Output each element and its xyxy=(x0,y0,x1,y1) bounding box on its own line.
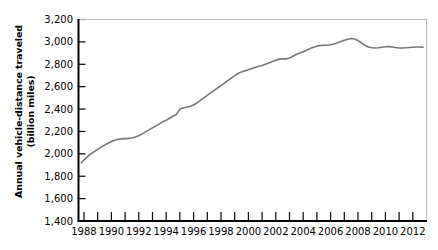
y-tick-label: 1,400 xyxy=(44,216,73,227)
x-tick-label: 2004 xyxy=(290,226,315,237)
x-tick-label: 2000 xyxy=(236,226,261,237)
x-tick-mark-group xyxy=(84,212,413,221)
plot-area-border xyxy=(79,20,427,222)
y-tick-mark-group xyxy=(79,20,86,199)
y-tick-label-group: 1,4001,6001,8002,0002,2002,4002,6002,800… xyxy=(44,14,73,227)
y-tick-label: 2,600 xyxy=(44,81,73,92)
x-tick-label: 1992 xyxy=(126,226,151,237)
y-tick-label: 3,000 xyxy=(44,36,73,47)
data-series-line xyxy=(81,39,423,163)
x-tick-label: 1998 xyxy=(208,226,233,237)
x-tick-label: 1988 xyxy=(71,226,96,237)
y-tick-label: 2,800 xyxy=(44,59,73,70)
x-tick-label: 2002 xyxy=(263,226,288,237)
line-chart-plot: 1,4001,6001,8002,0002,2002,4002,6002,800… xyxy=(0,0,438,250)
x-tick-label: 1994 xyxy=(153,226,178,237)
x-tick-label-group: 1988199019921994199619982000200220042006… xyxy=(71,226,425,237)
y-tick-label: 2,000 xyxy=(44,148,73,159)
x-tick-label: 2008 xyxy=(345,226,370,237)
y-tick-label: 2,200 xyxy=(44,126,73,137)
y-tick-label: 1,800 xyxy=(44,171,73,182)
y-tick-label: 1,600 xyxy=(44,193,73,204)
x-tick-label: 2006 xyxy=(318,226,343,237)
x-tick-label: 1990 xyxy=(99,226,124,237)
y-tick-label: 2,400 xyxy=(44,104,73,115)
x-tick-label: 2010 xyxy=(373,226,398,237)
y-tick-label: 3,200 xyxy=(44,14,73,25)
x-tick-label: 1996 xyxy=(181,226,206,237)
x-tick-label: 2012 xyxy=(400,226,425,237)
chart-figure: Annual vehicle-distance traveled (billio… xyxy=(0,0,438,250)
